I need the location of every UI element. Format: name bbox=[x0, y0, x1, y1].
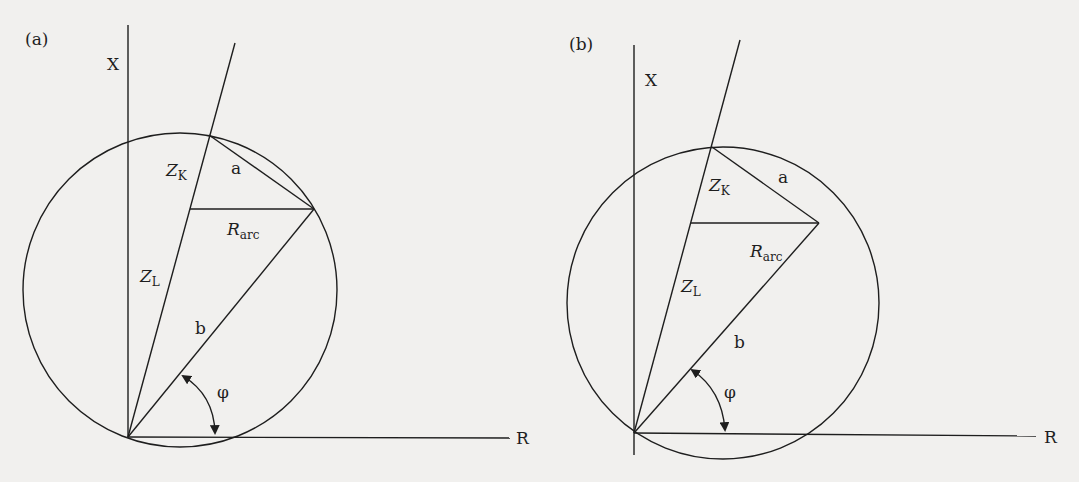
panel-a: (a) X R ZK a Rarc ZL b φ bbox=[23, 25, 530, 448]
chord-a-a bbox=[209, 135, 314, 209]
zk-label-a: ZK bbox=[165, 160, 188, 183]
b-label-b: b bbox=[734, 332, 745, 352]
r-axis-label-b: R bbox=[1044, 427, 1058, 447]
a-label-b: a bbox=[778, 167, 788, 187]
r-axis-b bbox=[634, 433, 1036, 436]
panel-b-label: (b) bbox=[569, 34, 593, 54]
diagram-svg: (a) X R ZK a Rarc ZL b φ (b) X R ZK a Ra… bbox=[0, 0, 1079, 482]
zl-label-a: ZL bbox=[139, 266, 160, 289]
phi-arc-a bbox=[183, 376, 215, 433]
line-impedance-z-a bbox=[128, 43, 235, 437]
r-axis-label-a: R bbox=[516, 428, 530, 448]
a-label-a: a bbox=[231, 158, 241, 178]
b-label-a: b bbox=[195, 318, 206, 338]
panel-b: (b) X R ZK a Rarc ZL b φ bbox=[567, 34, 1058, 459]
panel-a-label: (a) bbox=[25, 29, 48, 49]
phi-arc-b bbox=[692, 370, 725, 430]
impedance-diagram-canvas: (a) X R ZK a Rarc ZL b φ (b) X R ZK a Ra… bbox=[0, 0, 1079, 482]
line-impedance-z-b bbox=[634, 40, 740, 433]
phi-label-a: φ bbox=[217, 382, 229, 402]
r-axis-a bbox=[128, 437, 510, 438]
chord-b-a bbox=[128, 209, 314, 437]
x-axis-label-b: X bbox=[645, 70, 658, 90]
zk-label-b: ZK bbox=[708, 175, 731, 198]
x-axis-label-a: X bbox=[107, 54, 120, 74]
zl-label-b: ZL bbox=[680, 276, 701, 299]
phi-label-b: φ bbox=[724, 382, 736, 402]
rarc-label-a: Rarc bbox=[226, 219, 260, 242]
rarc-label-b: Rarc bbox=[749, 241, 783, 264]
